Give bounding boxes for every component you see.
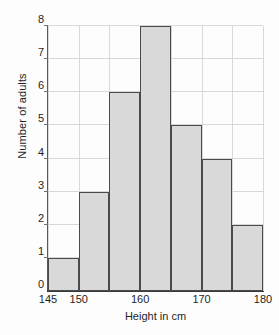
y-tick-mark <box>44 224 48 225</box>
x-axis-tick-labels: 145150160170180 <box>48 293 263 309</box>
y-tick-label: 1 <box>24 246 44 257</box>
y-tick-label: 5 <box>24 113 44 124</box>
y-tick-mark <box>44 25 48 26</box>
y-tick-label: 4 <box>24 147 44 158</box>
y-tick-label: 3 <box>24 180 44 191</box>
x-tick-label: 160 <box>123 293 157 305</box>
y-tick-mark <box>44 91 48 92</box>
y-axis-tick-labels: 012345678 <box>24 20 44 300</box>
x-tick-label: 145 <box>31 293 65 305</box>
histogram-bar <box>171 125 202 291</box>
y-tick-label: 6 <box>24 80 44 91</box>
x-tick-label: 170 <box>185 293 219 305</box>
histogram-chart: Number of adults 012345678 1451501601701… <box>0 0 279 335</box>
histogram-bar <box>232 225 263 291</box>
histogram-bar <box>140 26 171 291</box>
histogram-bar <box>79 192 110 291</box>
y-tick-mark <box>44 124 48 125</box>
gridline-vertical <box>263 26 264 291</box>
histogram-bar <box>109 92 140 291</box>
x-axis-title: Height in cm <box>48 310 263 322</box>
histogram-bar <box>48 258 79 291</box>
y-tick-mark <box>44 158 48 159</box>
plot-area <box>48 26 263 291</box>
y-tick-label: 0 <box>24 279 44 290</box>
x-tick-label: 180 <box>246 293 279 305</box>
y-tick-mark <box>44 191 48 192</box>
x-tick-label: 150 <box>62 293 96 305</box>
y-tick-label: 2 <box>24 213 44 224</box>
y-tick-label: 8 <box>24 14 44 25</box>
y-tick-mark <box>44 58 48 59</box>
gridline-vertical <box>48 26 49 291</box>
y-tick-label: 7 <box>24 47 44 58</box>
histogram-bar <box>202 159 233 292</box>
